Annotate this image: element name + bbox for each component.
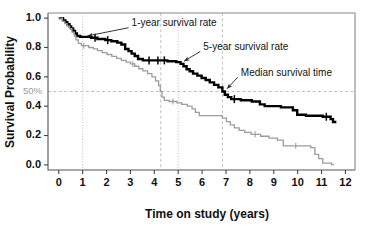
- y-tick-label: 1.0: [26, 11, 41, 23]
- y-tick-label: 0.2: [26, 128, 41, 140]
- x-tick-label: 11: [316, 176, 328, 188]
- survival-curves-layer: [59, 18, 337, 164]
- survival-plot-svg: 01234567891011120.00.20.40.60.81.0 1-yea…: [0, 0, 372, 228]
- x-tick-label: 9: [271, 176, 277, 188]
- five-year-survival-rate-label: 5-year survival rate: [203, 41, 288, 52]
- x-tick-label: 6: [199, 176, 205, 188]
- one-year-survival-rate-label: 1-year survival rate: [132, 17, 217, 28]
- y-axis-title: Survival Probability: [3, 36, 17, 148]
- x-tick-label: 10: [292, 176, 304, 188]
- y-tick-label: 0.4: [26, 99, 42, 111]
- median-survival-time-leader: [227, 77, 238, 89]
- x-axis-title: Time on study (years): [145, 207, 269, 221]
- five-year-survival-rate-leader: [184, 51, 200, 61]
- annotations-layer: 1-year survival rate5-year survival rate…: [88, 17, 333, 88]
- x-tick-label: 8: [247, 176, 253, 188]
- kaplan-meier-figure: 01234567891011120.00.20.40.60.81.0 1-yea…: [0, 0, 372, 228]
- y-tick-label: 0.8: [26, 40, 41, 52]
- y-tick-label: 0.0: [26, 158, 41, 170]
- x-tick-label: 7: [223, 176, 229, 188]
- x-tick-label: 4: [151, 176, 158, 188]
- y-tick-label: 0.6: [26, 70, 41, 82]
- fifty-percent-label: 50%: [23, 85, 43, 96]
- one-year-survival-rate-leader: [88, 28, 129, 36]
- x-tick-label: 1: [80, 176, 86, 188]
- median-survival-time-label: Median survival time: [241, 67, 333, 78]
- x-tick-label: 12: [339, 176, 351, 188]
- x-tick-label: 3: [127, 176, 133, 188]
- x-tick-label: 5: [175, 176, 181, 188]
- reference-lines-layer: [48, 13, 355, 170]
- tick-labels-layer: 01234567891011120.00.20.40.60.81.0: [26, 11, 352, 188]
- x-tick-label: 0: [56, 176, 62, 188]
- axis-ticks-layer: [44, 18, 345, 174]
- x-tick-label: 2: [103, 176, 109, 188]
